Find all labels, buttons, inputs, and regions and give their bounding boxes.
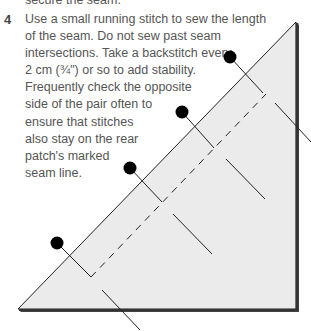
pin-head-icon [224, 51, 237, 64]
front-patch [18, 22, 296, 309]
pin-head-icon [51, 237, 64, 250]
pin-head-icon [176, 106, 189, 119]
pin-head-icon [124, 162, 137, 175]
patch-diagram [0, 0, 311, 331]
